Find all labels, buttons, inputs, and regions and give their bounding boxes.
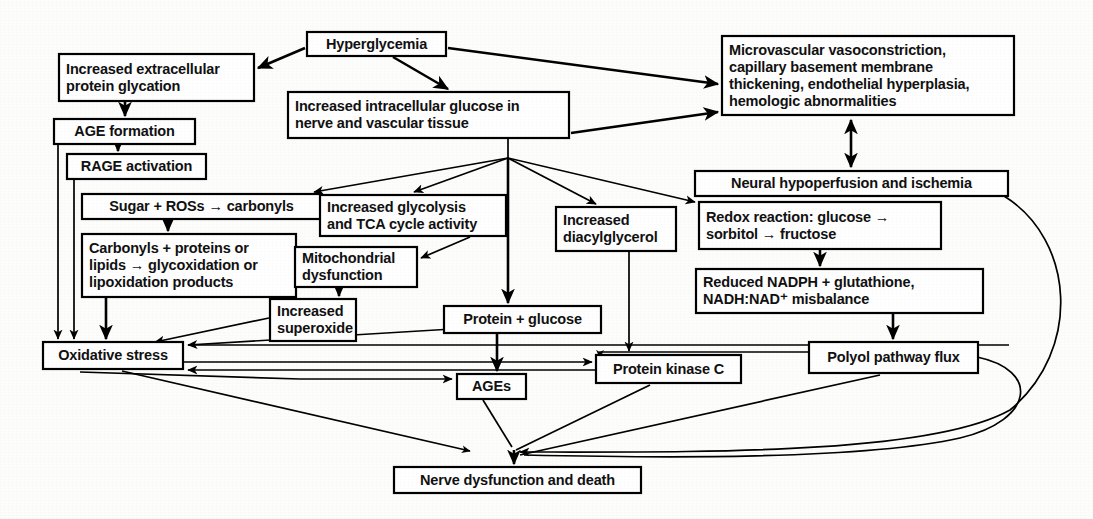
node-label-sugar_ros-line1: Sugar + ROSs → carbonyls xyxy=(109,198,294,214)
node-label-neural_hypo-line1: Neural hypoperfusion and ischemia xyxy=(731,175,973,191)
node-neural_hypo: Neural hypoperfusion and ischemia xyxy=(695,171,1008,196)
node-hyperglycemia: Hyperglycemia xyxy=(307,32,446,56)
edge-hyperglycemia-to-microvascular xyxy=(448,48,718,84)
node-age_formation: AGE formation xyxy=(54,119,195,144)
node-label-superoxide-line1: Increased xyxy=(277,303,343,319)
edge-glycolysis-to-mitochondrial-dysfunction xyxy=(421,237,470,258)
node-intracellular: Increased intracellular glucose innerve … xyxy=(288,92,569,138)
edge-hyperglycemia-to-extracellular-glycation xyxy=(258,48,305,68)
node-label-extracellular-line2: protein glycation xyxy=(66,78,180,94)
edge-hub-to-sugar-ros xyxy=(314,158,508,192)
edge-hub-to-redox-reaction xyxy=(508,158,695,202)
node-label-redox-line2: sorbitol → fructose xyxy=(706,226,836,242)
node-label-carbonyls-line1: Carbonyls + proteins or xyxy=(89,240,249,256)
edge-hyperglycemia-to-intracellular-glucose xyxy=(393,57,448,89)
node-label-nadph-line1: Reduced NADPH + glutathione, xyxy=(703,274,914,290)
node-label-diacylglycerol-line2: diacylglycerol xyxy=(563,229,658,245)
diagram-canvas: HyperglycemiaIncreased extracellularprot… xyxy=(0,0,1093,519)
node-label-extracellular-line1: Increased extracellular xyxy=(66,61,220,77)
node-label-glycolysis-line2: and TCA cycle activity xyxy=(327,216,477,232)
node-label-microvascular-line1: Microvascular vasoconstriction, xyxy=(729,42,946,58)
node-label-microvascular-line2: capillary basement membrane xyxy=(729,59,933,75)
node-label-glycolysis-line1: Increased glycolysis xyxy=(327,199,466,215)
node-sugar_ros: Sugar + ROSs → carbonyls xyxy=(82,194,321,219)
node-rage_activation: RAGE activation xyxy=(67,154,206,179)
node-layer: HyperglycemiaIncreased extracellularprot… xyxy=(43,32,1014,493)
node-label-oxidative-line1: Oxidative stress xyxy=(58,347,168,363)
edge-oxidative-stress-to-ages xyxy=(80,372,452,379)
node-label-intracellular-line2: nerve and vascular tissue xyxy=(295,115,469,131)
node-mitochondrial: Mitochondrialdysfunction xyxy=(295,247,417,287)
node-label-rage_activation-line1: RAGE activation xyxy=(81,158,192,174)
node-label-nerve_death-line1: Nerve dysfunction and death xyxy=(420,472,615,488)
node-label-carbonyls-line2: lipids → glycoxidation or xyxy=(89,257,258,273)
node-ages: AGEs xyxy=(457,374,526,399)
node-oxidative: Oxidative stress xyxy=(43,342,183,369)
node-pkc: Protein kinase C xyxy=(596,355,741,383)
node-label-polyol-line1: Polyol pathway flux xyxy=(827,349,960,365)
node-label-carbonyls-line3: lipoxidation products xyxy=(89,274,233,290)
edge-intracellular-glucose-to-microvascular xyxy=(571,112,718,133)
node-label-microvascular-line3: thickening, endothelial hyperplasia, xyxy=(729,76,969,92)
node-label-protein_glucose-line1: Protein + glucose xyxy=(463,311,582,327)
edge-superoxide-to-oxidative-stress xyxy=(155,318,269,342)
node-label-nadph-line2: NADH:NAD⁺ misbalance xyxy=(703,291,869,307)
edge-ages-to-nerve-death xyxy=(483,400,512,447)
node-label-intracellular-line1: Increased intracellular glucose in xyxy=(295,98,520,114)
node-label-hyperglycemia-line1: Hyperglycemia xyxy=(326,36,428,52)
node-label-ages-line1: AGEs xyxy=(472,378,511,394)
node-label-mitochondrial-line2: dysfunction xyxy=(302,267,383,283)
node-nadph: Reduced NADPH + glutathione,NADH:NAD⁺ mi… xyxy=(696,269,983,313)
node-diacylglycerol: Increaseddiacylglycerol xyxy=(556,207,676,251)
node-label-pkc-line1: Protein kinase C xyxy=(613,361,725,377)
node-label-diacylglycerol-line1: Increased xyxy=(563,212,629,228)
node-label-microvascular-line4: hemologic abnormalities xyxy=(729,93,896,109)
node-label-redox-line1: Redox reaction: glucose → xyxy=(706,209,889,225)
edge-hub-to-glycolysis xyxy=(414,158,508,192)
node-carbonyls: Carbonyls + proteins orlipids → glycoxid… xyxy=(82,234,296,297)
node-nerve_death: Nerve dysfunction and death xyxy=(394,467,641,493)
node-label-age_formation-line1: AGE formation xyxy=(74,123,174,139)
node-label-mitochondrial-line1: Mitochondrial xyxy=(302,250,395,266)
node-glycolysis: Increased glycolysisand TCA cycle activi… xyxy=(320,195,506,236)
node-polyol: Polyol pathway flux xyxy=(809,342,978,373)
node-superoxide: Increasedsuperoxide xyxy=(270,299,356,341)
node-protein_glucose: Protein + glucose xyxy=(444,306,601,333)
node-label-superoxide-line2: superoxide xyxy=(277,320,353,336)
flowchart-svg: HyperglycemiaIncreased extracellularprot… xyxy=(0,0,1093,519)
node-microvascular: Microvascular vasoconstriction,capillary… xyxy=(722,36,1014,115)
edge-polyol-to-nerve-death xyxy=(520,375,880,455)
edge-oxidative-stress-to-nerve-death xyxy=(122,371,470,451)
edge-hub-to-diacylglycerol xyxy=(508,158,596,204)
node-extracellular: Increased extracellularprotein glycation xyxy=(59,54,254,101)
node-redox: Redox reaction: glucose →sorbitol → fruc… xyxy=(699,202,941,249)
